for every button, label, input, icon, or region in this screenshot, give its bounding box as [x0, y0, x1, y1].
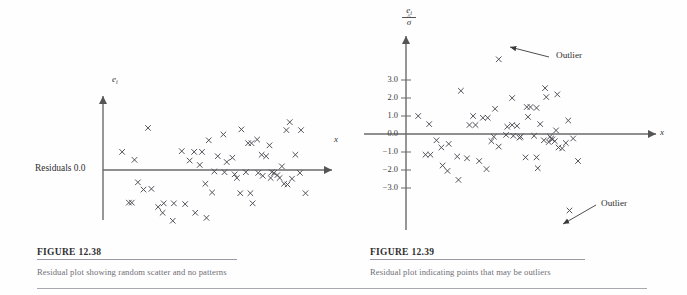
scatter-point — [434, 138, 439, 143]
scatter-point — [132, 157, 137, 162]
scatter-point — [465, 156, 470, 161]
scatter-point — [221, 132, 226, 137]
y-tick-label: −2.0 — [366, 165, 398, 174]
scatter-point — [567, 208, 572, 213]
outlier-leader-upper — [510, 47, 549, 57]
figure-rule-right — [370, 259, 585, 260]
scatter-point — [473, 123, 478, 128]
figure-caption-block-right: FIGURE 12.39 Residual plot indicating po… — [370, 247, 585, 277]
scatter-point — [455, 154, 460, 159]
scatter-point — [576, 159, 581, 164]
scatter-point — [277, 175, 282, 180]
scatter-point — [547, 134, 552, 139]
y-tick-label: −3.0 — [366, 183, 398, 192]
scatter-point — [467, 123, 472, 128]
scatter-point — [171, 201, 176, 206]
scatter-point — [297, 170, 302, 175]
x-axis-label-right: x — [660, 127, 664, 137]
scatter-point — [224, 160, 229, 165]
scatter-point — [445, 168, 450, 173]
figure-panel-12-39: ei ^σ x 3.02.01.00.0−1.0−2.0−3.0 Outlier… — [344, 0, 687, 295]
scatter-point — [249, 141, 254, 146]
scatter-point — [193, 210, 198, 215]
figure-page: ei x Residuals 0.0 FIGURE 12.38 Residual… — [0, 0, 687, 295]
y-tick-label: 3.0 — [366, 75, 398, 84]
figure-panel-12-38: ei x Residuals 0.0 FIGURE 12.38 Residual… — [0, 0, 344, 295]
scatter-point — [238, 191, 243, 196]
scatter-point — [255, 137, 260, 142]
scatter-point — [135, 180, 140, 185]
figure-number-left: FIGURE 12.38 — [37, 247, 237, 257]
scatter-point — [149, 186, 154, 191]
plot-svg-left — [0, 0, 344, 240]
residual-scatter-plot-outliers — [344, 0, 687, 240]
scatter-point — [538, 122, 543, 127]
scatter-point — [192, 149, 197, 154]
figure-caption-block-left: FIGURE 12.38 Residual plot showing rando… — [37, 247, 237, 277]
scatter-point — [439, 145, 444, 150]
scatter-point — [471, 114, 476, 119]
scatter-point — [303, 191, 308, 196]
figure-caption-right: Residual plot indicating points that may… — [370, 267, 585, 277]
scatter-point — [515, 123, 520, 128]
scatter-point — [496, 57, 501, 62]
outlier-annotation-lower: Outlier — [601, 198, 627, 208]
scatter-point — [446, 141, 451, 146]
scatter-point — [504, 132, 509, 137]
scatter-point — [485, 115, 490, 120]
scatter-point — [535, 166, 540, 171]
figure-number-right: FIGURE 12.39 — [370, 247, 585, 257]
scatter-point — [534, 105, 539, 110]
scatter-point — [428, 152, 433, 157]
scatter-point — [267, 143, 272, 148]
scatter-point — [264, 154, 269, 159]
scatter-point — [510, 96, 515, 101]
scatter-point — [566, 118, 571, 123]
scatter-point — [541, 138, 546, 143]
scatter-point — [279, 164, 284, 169]
scatter-point — [484, 167, 489, 172]
scatter-point — [161, 201, 166, 206]
scatter-point — [458, 88, 463, 93]
scatter-point — [477, 159, 482, 164]
scatter-point — [555, 92, 560, 97]
scatter-point — [526, 114, 531, 119]
scatter-point — [571, 136, 576, 141]
scatter-point — [141, 187, 146, 192]
scatter-point — [287, 120, 292, 125]
scatter-point — [293, 152, 298, 157]
scatter-points-left — [120, 120, 308, 224]
scatter-point — [268, 175, 273, 180]
scatter-point — [284, 128, 289, 133]
figure-caption-left: Residual plot showing random scatter and… — [37, 267, 237, 277]
scatter-point — [528, 105, 533, 110]
scatter-point — [493, 106, 498, 111]
scatter-point — [120, 149, 125, 154]
scatter-point — [170, 218, 175, 223]
scatter-point — [230, 155, 235, 160]
scatter-point — [427, 122, 432, 127]
scatter-point — [505, 124, 510, 129]
scatter-point — [204, 215, 209, 220]
scatter-point — [197, 162, 202, 167]
scatter-point — [259, 152, 264, 157]
y-axis-label-fraction: ei ^σ — [401, 6, 417, 27]
residual-scatter-plot-random — [0, 0, 344, 240]
scatter-point — [179, 149, 184, 154]
scatter-point — [456, 177, 461, 182]
fraction-denominator: ^σ — [401, 18, 417, 27]
scatter-point — [248, 191, 253, 196]
scatter-point — [206, 138, 211, 143]
scatter-point — [563, 141, 568, 146]
y-tick-label: 2.0 — [366, 93, 398, 102]
scatter-point — [183, 202, 188, 207]
scatter-point — [560, 146, 565, 151]
outlier-annotation-upper: Outlier — [556, 50, 582, 60]
scatter-point — [416, 114, 421, 119]
y-axis-label-left: ei — [112, 74, 118, 85]
scatter-point — [156, 204, 161, 209]
scatter-point — [203, 181, 208, 186]
scatter-point — [510, 123, 515, 128]
scatter-points-right — [416, 57, 581, 213]
outlier-leader-lower — [563, 205, 596, 224]
